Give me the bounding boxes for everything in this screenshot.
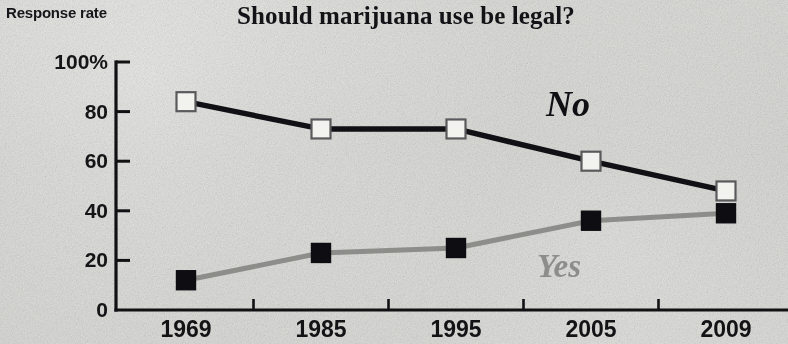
data-point-yes-2009 <box>717 204 736 223</box>
data-point-no-2009 <box>717 181 736 200</box>
data-point-no-1985 <box>312 119 331 138</box>
data-point-yes-1969 <box>177 271 196 290</box>
data-point-yes-1995 <box>447 239 466 258</box>
data-point-yes-2005 <box>582 211 601 230</box>
data-point-no-2005 <box>582 152 601 171</box>
data-point-yes-1985 <box>312 243 331 262</box>
data-point-no-1969 <box>177 92 196 111</box>
plot-area <box>0 0 788 344</box>
series-line-no <box>186 102 726 191</box>
series-group <box>177 92 736 290</box>
data-point-no-1995 <box>447 119 466 138</box>
chart-figure: Response rate Should marijuana use be le… <box>0 0 788 344</box>
